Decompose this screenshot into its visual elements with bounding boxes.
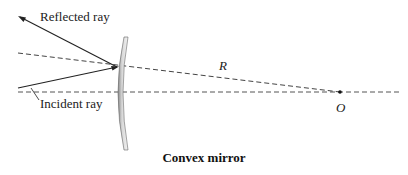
diagram-caption: Convex mirror: [0, 150, 408, 166]
reflected-ray-label: Reflected ray: [40, 10, 110, 23]
incident-arrowhead-icon: [111, 66, 119, 71]
incident-ray-line: [18, 67, 117, 88]
incident-label-leader: [31, 88, 39, 100]
reflected-arrowhead-icon: [18, 16, 26, 22]
center-label: O: [336, 101, 345, 114]
convex-mirror-diagram: Reflected ray Incident ray R O Convex mi…: [0, 0, 408, 175]
radius-label: R: [219, 59, 227, 72]
convex-mirror: [118, 37, 128, 150]
center-point-o: [338, 90, 342, 94]
incident-ray-label: Incident ray: [40, 97, 102, 110]
normal-line-radius: [18, 53, 340, 92]
ray-diagram-svg: [0, 0, 408, 175]
